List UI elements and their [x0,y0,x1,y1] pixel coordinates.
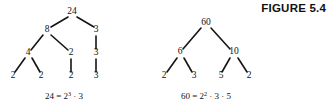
caption-lhs: 60 = 2 [181,91,204,101]
node-3-c: 3 [94,70,99,80]
factor-trees-diagram: 24834232223 606102352 24 = 23 · 360 = 22… [0,0,329,108]
edge-8-2 [51,35,68,50]
caption-lhs: 24 = 2 [45,91,68,101]
factor-tree-60-nodes: 606102352 [162,17,252,80]
node-5: 5 [219,70,224,80]
node-3-b: 3 [94,47,99,57]
node-3-d: 3 [192,70,197,80]
node-2-f: 2 [247,70,252,80]
edge-60-10 [211,28,230,49]
factor-tree-24-caption: 24 = 23 · 3 [45,90,84,101]
caption-rhs: · 3 · 5 [207,91,231,101]
edge-24-3 [77,17,94,27]
node-24: 24 [67,6,77,16]
factor-tree-24-nodes: 24834232223 [11,6,99,80]
caption-rhs: · 3 [71,91,83,101]
node-2-e: 2 [162,70,167,80]
node-3-a: 3 [94,24,99,34]
edge-24-8 [51,17,68,27]
edge-8-4 [31,35,43,50]
node-4: 4 [26,47,31,57]
node-2-b: 2 [11,70,16,80]
factor-tree-24-edges [15,17,96,72]
node-60: 60 [201,17,211,27]
node-2-c: 2 [39,70,44,80]
edge-60-6 [183,28,201,49]
node-2-a: 2 [69,47,74,57]
factor-tree-60-caption: 60 = 22 · 3 · 5 [181,90,232,101]
node-6: 6 [178,46,183,56]
node-8: 8 [45,24,50,34]
figure-container: FIGURE 5.4 24834232223 606102352 24 = 23… [0,0,329,108]
edge-6-2 [167,58,177,72]
node-10: 10 [229,46,239,56]
node-2-d: 2 [69,70,74,80]
factor-tree-captions: 24 = 23 · 360 = 22 · 3 · 5 [45,90,232,101]
edge-4-2a [15,58,25,72]
